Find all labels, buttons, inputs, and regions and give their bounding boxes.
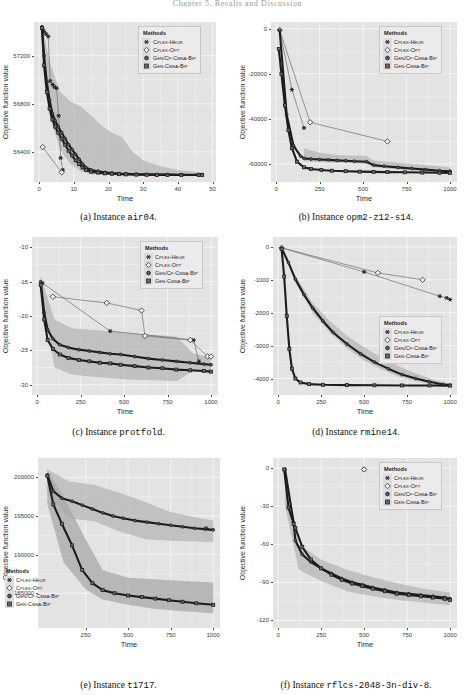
filled-square-marker	[383, 62, 392, 70]
x-tick-label: 250	[316, 399, 326, 405]
x-tick-mark	[168, 395, 169, 397]
legend-item[interactable]: CPLEX-OPT	[383, 336, 437, 344]
x-tick-label: 1000	[207, 632, 220, 638]
legend-item[interactable]: CPLEX-OPT	[383, 46, 437, 54]
legend-item[interactable]: GEN-CMSA-BIP	[383, 62, 437, 70]
x-tick-label: 250	[315, 186, 325, 192]
x-tick-mark	[178, 182, 179, 184]
legend-item-label: GEN/CP-CMSA-BIP	[14, 593, 59, 599]
legend-item[interactable]: GEN/CP-CMSA-BIP	[142, 54, 196, 62]
x-tick-label: 750	[402, 186, 412, 192]
y-tick-label: 200000	[0, 474, 34, 480]
x-tick-mark	[321, 628, 322, 630]
caption-suffix: .	[411, 212, 413, 222]
y-tick-label: 0	[237, 244, 269, 250]
x-tick-mark	[407, 395, 408, 397]
open-diamond-marker	[383, 336, 392, 344]
y-tick-mark	[32, 104, 34, 105]
panel-f: 0-30-60-90-12002505007501000Objective fu…	[237, 442, 475, 695]
legend: MethodsCPLEX-HEURCPLEX-OPTGEN/CP-CMSA-BI…	[379, 26, 442, 74]
y-tick-mark	[271, 468, 273, 469]
legend-item[interactable]: CPLEX-HEUR	[5, 576, 59, 584]
y-tick-mark	[271, 582, 273, 583]
legend-item[interactable]: CPLEX-HEUR	[383, 38, 437, 46]
panel-e: 2000001950001900001850002505007501000Obj…	[0, 442, 237, 695]
y-tick-mark	[30, 385, 32, 386]
x-axis-title: Time	[271, 194, 457, 203]
figure-grid: 57200568005640001020304050Objective func…	[0, 9, 475, 695]
legend-title: Methods	[144, 245, 198, 251]
legend-item[interactable]: CPLEX-OPT	[383, 482, 437, 490]
legend-item[interactable]: GEN/CP-CMSA-BIP	[144, 269, 198, 277]
legend-item-label: GEN/CP-CMSA-BIP	[392, 55, 437, 61]
legend: MethodsCPLEX-HEURCPLEX-OPTGEN/CP-CMSA-BI…	[379, 462, 442, 510]
x-axis-title: Time	[32, 407, 218, 416]
panel-caption: (f) Instance rflcs-2048-3n-div-8.	[237, 680, 475, 691]
legend-item[interactable]: CPLEX-HEUR	[383, 328, 437, 336]
y-tick-mark	[30, 316, 32, 317]
legend-item[interactable]: GEN-CMSA-BIP	[383, 498, 437, 506]
legend-item-label: GEN-CMSA-BIP	[392, 353, 429, 359]
x-tick-label: 1000	[204, 399, 217, 405]
y-tick-label: -10	[0, 244, 28, 250]
legend-item[interactable]: GEN-CMSA-BIP	[142, 62, 196, 70]
y-tick-mark	[30, 247, 32, 248]
caption-prefix: (e) Instance	[80, 680, 127, 690]
x-tick-label: 250	[76, 399, 86, 405]
caption-instance: opm2-z12-s14	[346, 213, 411, 223]
legend-item[interactable]: GEN-CMSA-BIP	[383, 352, 437, 360]
legend: MethodsCPLEX-HEURCPLEX-OPTGEN/CP-CMSA-BI…	[379, 316, 442, 364]
legend-item[interactable]: GEN-CMSA-BIP	[144, 277, 198, 285]
legend-item[interactable]: GEN/CP-CMSA-BIP	[5, 592, 59, 600]
x-axis-title: Time	[273, 407, 457, 416]
y-tick-label: -4000	[237, 376, 269, 382]
legend-item[interactable]: CPLEX-OPT	[5, 584, 59, 592]
x-tick-label: 750	[402, 399, 412, 405]
y-tick-mark	[271, 346, 273, 347]
x-tick-label: 0	[38, 186, 41, 192]
y-tick-mark	[271, 620, 273, 621]
legend-item-label: GEN/CP-CMSA-BIP	[153, 270, 198, 276]
x-axis-title: Time	[34, 194, 216, 203]
x-tick-mark	[450, 395, 451, 397]
open-diamond-marker	[383, 46, 392, 54]
x-tick-label: 0	[36, 399, 39, 405]
y-axis-title: Objective function value	[239, 506, 246, 580]
caption-suffix: .	[397, 427, 399, 437]
x-tick-mark	[363, 182, 364, 184]
panel-caption: (a) Instance air04.	[0, 212, 237, 223]
open-diamond-marker	[142, 46, 151, 54]
legend-item-label: GEN-CMSA-BIP	[14, 601, 51, 607]
plot-canvas	[38, 458, 220, 628]
legend-item[interactable]: GEN/CP-CMSA-BIP	[383, 54, 437, 62]
x-axis-title: Time	[273, 640, 457, 649]
y-tick-label: 0	[237, 26, 267, 32]
open-diamond-marker	[144, 261, 153, 269]
legend-item[interactable]: GEN/CP-CMSA-BIP	[383, 344, 437, 352]
x-tick-label: 500	[358, 186, 368, 192]
x-tick-mark	[278, 395, 279, 397]
y-tick-mark	[36, 516, 38, 517]
asterisk-marker	[383, 328, 392, 336]
y-tick-mark	[269, 74, 271, 75]
filled-square-marker	[142, 62, 151, 70]
x-tick-mark	[81, 395, 82, 397]
legend-item-label: GEN/CP-CMSA-BIP	[392, 345, 437, 351]
caption-suffix: .	[154, 212, 156, 222]
x-tick-mark	[364, 395, 365, 397]
legend-item-label: CPLEX-OPT	[392, 483, 420, 489]
legend-item[interactable]: CPLEX-OPT	[142, 46, 196, 54]
legend-item[interactable]: CPLEX-HEUR	[383, 474, 437, 482]
x-tick-label: 250	[316, 632, 326, 638]
x-tick-mark	[450, 628, 451, 630]
legend-item-label: CPLEX-HEUR	[151, 39, 183, 45]
x-tick-label: 1000	[443, 399, 456, 405]
legend-item[interactable]: CPLEX-HEUR	[144, 253, 198, 261]
legend-item[interactable]: GEN-CMSA-BIP	[5, 600, 59, 608]
legend-item[interactable]: GEN/CP-CMSA-BIP	[383, 490, 437, 498]
legend-item[interactable]: CPLEX-HEUR	[142, 38, 196, 46]
panel-caption: (d) Instance rmine14.	[237, 427, 475, 438]
x-tick-mark	[39, 182, 40, 184]
legend-item[interactable]: CPLEX-OPT	[144, 261, 198, 269]
y-tick-mark	[36, 555, 38, 556]
